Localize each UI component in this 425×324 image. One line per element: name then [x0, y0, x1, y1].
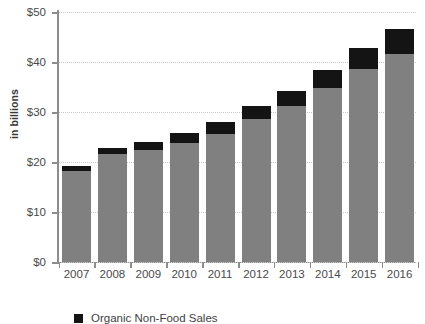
x-axis-tick-mark [346, 262, 348, 268]
y-axis-tick-mark [52, 12, 58, 14]
x-axis-tick-label-2008: 2008 [100, 268, 126, 280]
bar-segment-food-2008 [98, 154, 127, 262]
bar-segment-food-2013 [277, 106, 306, 262]
x-axis-tick-mark [94, 262, 96, 268]
y-axis-tick-mark [52, 112, 58, 114]
x-axis-tick-label-2007: 2007 [64, 268, 90, 280]
y-axis-tick-label: $10 [0, 206, 46, 218]
bar-2008[interactable] [98, 148, 127, 262]
x-axis-tick-label-2016: 2016 [387, 268, 413, 280]
bar-segment-food-2016 [385, 54, 414, 262]
bar-2007[interactable] [62, 166, 91, 262]
x-axis-tick-mark [274, 262, 276, 268]
bar-segment-non-food-2013 [277, 91, 306, 106]
bar-2013[interactable] [277, 91, 306, 262]
y-axis-tick-mark [52, 62, 58, 64]
x-axis-tick-label-2009: 2009 [136, 268, 162, 280]
bar-segment-non-food-2009 [134, 142, 163, 150]
bar-segment-food-2010 [170, 143, 199, 262]
gridline [57, 12, 416, 13]
x-axis-tick-mark [166, 262, 168, 268]
bar-segment-food-2009 [134, 150, 163, 262]
chart-legend: Organic Non-Food Sales [74, 312, 218, 324]
y-axis-tick-label: $40 [0, 56, 46, 68]
x-axis-tick-mark [59, 262, 61, 268]
x-axis-tick-mark [310, 262, 312, 268]
x-axis-tick-label-2014: 2014 [315, 268, 341, 280]
bar-segment-food-2014 [313, 88, 342, 262]
bar-2014[interactable] [313, 70, 342, 262]
x-axis-tick-label-2015: 2015 [351, 268, 377, 280]
bar-segment-non-food-2010 [170, 133, 199, 144]
y-axis-tick-label: $20 [0, 156, 46, 168]
x-axis-tick-label-2013: 2013 [279, 268, 305, 280]
bar-segment-non-food-2016 [385, 29, 414, 54]
bar-segment-non-food-2015 [349, 48, 378, 69]
bar-segment-food-2011 [206, 134, 235, 263]
bar-2011[interactable] [206, 122, 235, 263]
y-axis-tick-label: $30 [0, 106, 46, 118]
y-axis-tick-label: $50 [0, 6, 46, 18]
bar-segment-food-2007 [62, 171, 91, 262]
bar-2015[interactable] [349, 48, 378, 262]
x-axis-tick-mark [238, 262, 240, 268]
y-axis-tick-label: $0 [0, 256, 46, 268]
bar-2010[interactable] [170, 133, 199, 263]
gridline [57, 262, 416, 263]
x-axis-tick-label-2012: 2012 [243, 268, 269, 280]
legend-swatch-non-food [74, 314, 83, 323]
y-axis-line [57, 10, 59, 264]
bar-2009[interactable] [134, 142, 163, 262]
y-axis-tick-mark [52, 162, 58, 164]
bar-chart: in billions $0$10$20$30$40$50 2007200820… [0, 0, 425, 324]
bar-segment-non-food-2014 [313, 70, 342, 88]
x-axis-tick-label-2010: 2010 [171, 268, 197, 280]
bar-segment-food-2015 [349, 69, 378, 262]
x-axis-tick-mark [382, 262, 384, 268]
bar-segment-non-food-2008 [98, 148, 127, 154]
bar-2016[interactable] [385, 29, 414, 262]
x-axis-tick-label-2011: 2011 [208, 268, 233, 280]
bar-segment-non-food-2012 [242, 106, 271, 119]
x-axis-tick-mark [202, 262, 204, 268]
x-axis-tick-mark [130, 262, 132, 268]
bar-segment-non-food-2011 [206, 122, 235, 134]
y-axis-tick-mark [52, 262, 58, 264]
y-axis-tick-mark [52, 212, 58, 214]
plot-area [57, 12, 416, 262]
bar-segment-food-2012 [242, 119, 271, 262]
bar-2012[interactable] [242, 106, 271, 262]
bar-segment-non-food-2007 [62, 166, 91, 171]
legend-label-non-food: Organic Non-Food Sales [91, 312, 218, 324]
x-axis-tick-mark [418, 262, 420, 268]
